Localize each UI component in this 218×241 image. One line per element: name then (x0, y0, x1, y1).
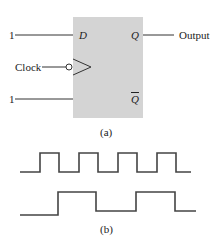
caption-b: (b) (100, 224, 113, 235)
clock-label: Clock (15, 62, 41, 73)
d-input-value: 1 (9, 30, 15, 41)
clock-waveform (20, 153, 191, 172)
caption-a: (a) (100, 127, 112, 138)
output-waveform (20, 192, 196, 215)
qbar-label: Q (131, 94, 139, 105)
output-label: Output (179, 30, 210, 41)
q-label: Q (131, 30, 139, 41)
bottom-input-value: 1 (9, 94, 15, 105)
d-label: D (79, 30, 87, 41)
